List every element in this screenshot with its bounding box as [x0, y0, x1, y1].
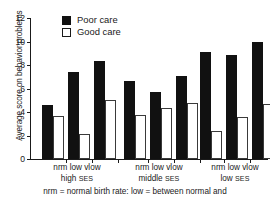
- legend-item-poor-care: Poor care: [62, 14, 121, 26]
- group-ses-label: middle SES: [120, 174, 198, 185]
- bar-good-care: [79, 134, 90, 159]
- x-axis-group-label-low: nrm low vlowlow SES: [196, 163, 270, 184]
- bar-good-care: [105, 100, 116, 159]
- y-axis-tick-label: 0: [20, 155, 25, 164]
- group-ses-abbreviation: SES: [79, 175, 94, 183]
- legend-item-good-care: Good care: [62, 26, 121, 38]
- bar-poor-care: [42, 105, 53, 159]
- y-axis-tick-label: 2: [20, 131, 25, 140]
- y-axis-line: [30, 18, 31, 160]
- bar-chart-figure: Average score on behavior problems 02468…: [0, 0, 270, 204]
- bar-good-care: [211, 131, 222, 159]
- y-axis-tick-mark: [27, 42, 30, 43]
- legend-swatch-poor-care-icon: [62, 16, 71, 25]
- bar-good-care: [237, 117, 248, 159]
- plot-area: 024681012: [30, 18, 268, 160]
- chart-caption: nrm = normal birth rate: low = between n…: [0, 188, 270, 196]
- bar-poor-care: [150, 92, 161, 159]
- y-axis-tick-label: 12: [15, 14, 25, 23]
- x-axis-group-label-middle: nrm low vlowmiddle SES: [120, 163, 198, 184]
- bar-poor-care: [68, 72, 79, 159]
- y-axis-tick-label: 6: [20, 84, 25, 93]
- legend-swatch-good-care-icon: [62, 28, 71, 37]
- y-axis-tick-label: 8: [20, 61, 25, 70]
- bar-good-care: [135, 115, 146, 159]
- legend-label-poor-care: Poor care: [77, 15, 118, 24]
- y-axis-tick-mark: [27, 159, 30, 160]
- group-ses-label: low SES: [196, 174, 270, 185]
- group-birth-rate-labels: nrm low vlow: [135, 163, 182, 172]
- group-birth-rate-labels: nrm low vlow: [211, 163, 258, 172]
- x-axis-group-label-high: nrm low vlowhigh SES: [38, 163, 116, 184]
- bar-poor-care: [200, 52, 211, 159]
- y-axis-tick-label: 10: [15, 37, 25, 46]
- group-ses-abbreviation: SES: [165, 175, 180, 183]
- group-ses-abbreviation: SES: [235, 175, 250, 183]
- bar-poor-care: [176, 76, 187, 159]
- bar-good-care: [187, 103, 198, 159]
- y-axis-tick-mark: [27, 136, 30, 137]
- bar-poor-care: [226, 55, 237, 159]
- bar-good-care: [161, 108, 172, 159]
- y-axis-tick-mark: [27, 65, 30, 66]
- group-ses-label: high SES: [38, 174, 116, 185]
- bar-good-care: [53, 116, 64, 159]
- group-birth-rate-labels: nrm low vlow: [53, 163, 100, 172]
- bar-good-care: [263, 104, 270, 159]
- y-axis-tick-mark: [27, 112, 30, 113]
- y-axis-tick-label: 4: [20, 108, 25, 117]
- x-axis-tick-mark: [118, 160, 119, 163]
- legend-label-good-care: Good care: [77, 27, 121, 36]
- bar-poor-care: [94, 61, 105, 159]
- y-axis-tick-mark: [27, 89, 30, 90]
- bar-poor-care: [124, 81, 135, 159]
- chart-legend: Poor care Good care: [62, 14, 121, 38]
- y-axis-tick-mark: [27, 18, 30, 19]
- bar-poor-care: [252, 42, 263, 160]
